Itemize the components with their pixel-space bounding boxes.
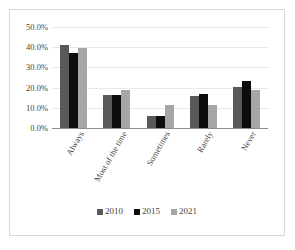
bar-2015-sometimes[interactable] bbox=[156, 116, 165, 128]
bar-2010-rarely[interactable] bbox=[190, 96, 199, 128]
x-axis-tick-label: Never bbox=[240, 130, 258, 152]
bar-2021-rarely[interactable] bbox=[208, 105, 217, 128]
x-axis: AlwaysMost of the timeSometimesRarelyNev… bbox=[52, 130, 268, 202]
bar-2015-never[interactable] bbox=[242, 81, 251, 128]
chart-legend: 201020152021 bbox=[9, 207, 285, 216]
y-axis-tick-label: 30.0% bbox=[10, 63, 48, 71]
bar-group bbox=[190, 27, 217, 128]
bar-2021-sometimes[interactable] bbox=[165, 105, 174, 128]
bar-2015-rarely[interactable] bbox=[199, 94, 208, 128]
bar-2021-always[interactable] bbox=[78, 48, 87, 128]
bar-2010-always[interactable] bbox=[60, 45, 69, 128]
bar-2010-most-of-the-time[interactable] bbox=[103, 95, 112, 128]
bar-group bbox=[233, 27, 260, 128]
bar-2010-sometimes[interactable] bbox=[147, 116, 156, 128]
x-axis-tick-label: Most of the time bbox=[93, 130, 129, 183]
legend-label: 2010 bbox=[105, 207, 123, 216]
x-axis-line bbox=[52, 128, 268, 129]
bar-group bbox=[103, 27, 130, 128]
legend-item-2010[interactable]: 2010 bbox=[97, 207, 123, 216]
y-axis-tick-label: 50.0% bbox=[10, 23, 48, 31]
bar-group bbox=[147, 27, 174, 128]
legend-label: 2021 bbox=[179, 207, 197, 216]
y-axis-tick-label: 20.0% bbox=[10, 84, 48, 92]
bar-2010-never[interactable] bbox=[233, 87, 242, 128]
x-axis-tick-label: Always bbox=[65, 130, 86, 157]
x-axis-tick-label: Sometimes bbox=[145, 130, 172, 167]
y-axis-tick-label: 40.0% bbox=[10, 43, 48, 51]
bar-2021-most-of-the-time[interactable] bbox=[121, 90, 130, 128]
legend-swatch-icon bbox=[134, 209, 140, 215]
legend-swatch-icon bbox=[97, 209, 103, 215]
bar-2015-always[interactable] bbox=[69, 53, 78, 128]
plot-area bbox=[52, 27, 268, 128]
bar-chart: 0.0%10.0%20.0%30.0%40.0%50.0% AlwaysMost… bbox=[0, 0, 295, 250]
legend-item-2015[interactable]: 2015 bbox=[134, 207, 160, 216]
legend-item-2021[interactable]: 2021 bbox=[171, 207, 197, 216]
x-axis-tick-label: Rarely bbox=[196, 130, 215, 154]
bar-2015-most-of-the-time[interactable] bbox=[112, 95, 121, 128]
legend-label: 2015 bbox=[142, 207, 160, 216]
bar-2021-never[interactable] bbox=[251, 90, 260, 128]
bar-group bbox=[60, 27, 87, 128]
y-axis-tick-label: 10.0% bbox=[10, 104, 48, 112]
legend-swatch-icon bbox=[171, 209, 177, 215]
y-axis-tick-label: 0.0% bbox=[10, 124, 48, 132]
